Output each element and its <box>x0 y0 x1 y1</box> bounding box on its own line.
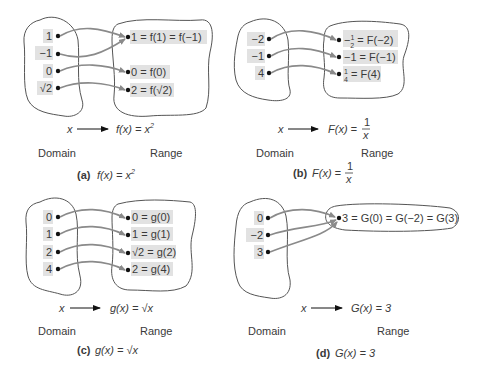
domain-value: −1 <box>39 47 52 59</box>
caption-function: F(x) = <box>312 167 342 179</box>
caption-function: g(x) = √x <box>95 344 139 356</box>
svg-text:x: x <box>362 129 369 141</box>
mapping-arrow <box>60 39 125 57</box>
mapping-arrow <box>270 220 336 235</box>
range-value: 3 = G(0) = G(−2) = G(3) <box>342 212 458 224</box>
mapping-output: f(x) = x2 <box>116 122 154 135</box>
domain-value: 2 <box>46 246 52 258</box>
caption-function: f(x) = x2 <box>97 168 135 181</box>
caption-function: G(x) = 3 <box>335 347 376 359</box>
range-label: Range <box>361 147 393 159</box>
range-value: 1 = f(1) = f(−1) <box>131 31 202 43</box>
domain-value: √2 <box>40 82 52 94</box>
mapping-arrow <box>60 262 125 270</box>
svg-text:1: 1 <box>364 116 370 128</box>
mapping-arrow <box>60 227 125 235</box>
domain-value: 3 <box>257 246 263 258</box>
range-value: 2 = f(√2) <box>131 84 172 96</box>
domain-label: Domain <box>38 147 76 159</box>
mapping-input: x <box>58 302 65 314</box>
mapping-arrow <box>60 245 125 253</box>
domain-value: −2 <box>251 33 264 45</box>
domain-label: Domain <box>256 147 294 159</box>
domain-value: 0 <box>257 212 263 224</box>
caption-label: (d) <box>316 347 330 359</box>
mapping-output: g(x) = √x <box>110 302 154 314</box>
mapping-input: x <box>66 123 73 135</box>
range-value: 1 = g(1) <box>132 228 170 240</box>
caption-label: (a) <box>77 169 91 181</box>
domain-value: 1 <box>46 228 52 240</box>
panel-d: 0 −2 3 3 = G(0) = G(−2) = G(3) x G(x) = … <box>234 198 459 359</box>
mapping-arrow <box>60 210 125 218</box>
range-value: √2 = g(2) <box>132 246 176 258</box>
panel-a: 1 −1 0 √2 1 = f(1) = f(−1) 0 = f(0) 2 = … <box>24 17 212 181</box>
mapping-arrow <box>270 222 337 252</box>
mapping-arrow <box>60 83 125 90</box>
mapping-input: x <box>300 302 307 314</box>
range-label: Range <box>377 325 409 337</box>
svg-text:x: x <box>345 173 352 185</box>
range-value: 0 = f(0) <box>131 66 166 78</box>
panel-b: −2 −1 4 −12 = F(−2) −1 = F(−1) 14 = F(4)… <box>234 19 408 185</box>
caption-label: (c) <box>77 344 91 356</box>
domain-value: 0 <box>46 65 52 77</box>
function-mapping-diagrams: 1 −1 0 √2 1 = f(1) = f(−1) 0 = f(0) 2 = … <box>0 0 478 378</box>
mapping-arrow <box>60 29 125 37</box>
domain-label: Domain <box>248 325 286 337</box>
svg-text:1: 1 <box>347 160 353 172</box>
range-label: Range <box>140 325 172 337</box>
mapping-arrow <box>271 31 336 40</box>
domain-value: 4 <box>258 67 264 79</box>
caption-label: (b) <box>293 167 307 179</box>
domain-value: 0 <box>46 211 52 223</box>
domain-label: Domain <box>38 325 76 337</box>
mapping-output: F(x) = <box>328 123 358 135</box>
domain-value: −1 <box>251 50 264 62</box>
range-value: −1 = F(−1) <box>344 51 396 63</box>
domain-value: 1 <box>46 30 52 42</box>
panel-c: 0 1 2 4 0 = g(0) 1 = g(1) √2 = g(2) 2 = … <box>26 198 196 356</box>
range-label: Range <box>150 147 182 159</box>
range-value: 2 = g(4) <box>132 263 170 275</box>
domain-value: −2 <box>250 229 263 241</box>
mapping-input: x <box>277 123 284 135</box>
mapping-arrow <box>60 65 125 72</box>
domain-value: 4 <box>46 263 52 275</box>
mapping-arrow <box>271 49 336 57</box>
range-value: 0 = g(0) <box>132 211 170 223</box>
mapping-arrow <box>271 66 336 74</box>
mapping-output: G(x) = 3 <box>351 302 392 314</box>
